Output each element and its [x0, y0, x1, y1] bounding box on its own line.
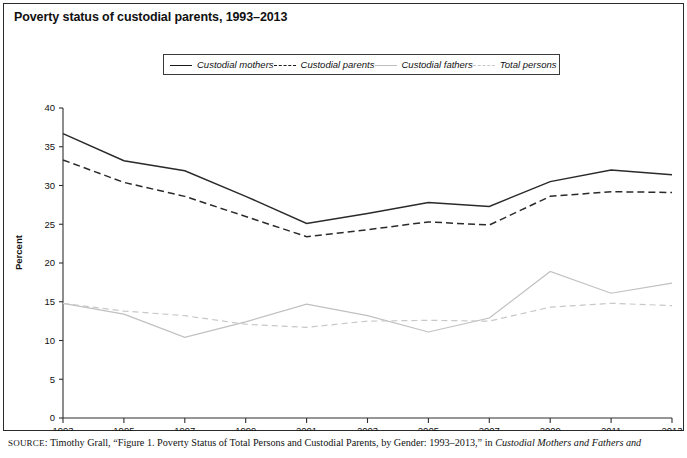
- screenshot-page: Poverty status of custodial parents, 199…: [0, 0, 687, 458]
- svg-text:15: 15: [44, 296, 55, 307]
- series-line-custodial-mothers: [63, 134, 672, 224]
- svg-text:0: 0: [50, 412, 55, 423]
- svg-text:2005: 2005: [418, 425, 439, 431]
- svg-text:25: 25: [44, 219, 55, 230]
- svg-text:1999: 1999: [235, 425, 256, 431]
- chart-series-group: [63, 134, 672, 338]
- svg-text:1997: 1997: [174, 425, 195, 431]
- svg-text:10: 10: [44, 335, 55, 346]
- series-line-custodial-fathers: [63, 272, 672, 338]
- chart-plot-area: 0510152025303540 19931995199719992001200…: [0, 0, 687, 431]
- chart-axes: [63, 108, 672, 418]
- source-text: : Timothy Grall, “Figure 1. Poverty Stat…: [45, 437, 495, 448]
- svg-text:2001: 2001: [296, 425, 317, 431]
- source-note: SOURCE: Timothy Grall, “Figure 1. Povert…: [8, 437, 680, 450]
- svg-text:2009: 2009: [540, 425, 561, 431]
- x-axis-ticks: 1993199519971999200120032005200720092011…: [52, 418, 682, 431]
- svg-text:2007: 2007: [479, 425, 500, 431]
- source-prefix: SOURCE: [8, 438, 45, 448]
- series-line-custodial-parents: [63, 160, 672, 237]
- svg-text:30: 30: [44, 180, 55, 191]
- svg-text:35: 35: [44, 141, 55, 152]
- line-chart: 0510152025303540 19931995199719992001200…: [0, 0, 687, 431]
- y-axis-ticks: 0510152025303540: [44, 102, 63, 423]
- svg-text:40: 40: [44, 102, 55, 113]
- svg-text:2011: 2011: [601, 425, 621, 431]
- svg-text:2013: 2013: [661, 425, 682, 431]
- svg-text:5: 5: [50, 374, 55, 385]
- svg-text:1993: 1993: [52, 425, 73, 431]
- source-publication-title: Custodial Mothers and Fathers and: [495, 437, 641, 448]
- svg-text:2003: 2003: [357, 425, 378, 431]
- svg-text:1995: 1995: [113, 425, 134, 431]
- svg-text:20: 20: [44, 257, 55, 268]
- y-axis-label: Percent: [13, 234, 24, 270]
